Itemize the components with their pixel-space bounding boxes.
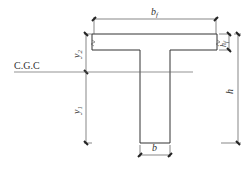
centroid-label: C.G.C [14, 60, 40, 71]
y-dimension [84, 32, 92, 145]
y1-label: y1 [71, 106, 84, 115]
y2-label: y2 [71, 50, 84, 59]
flange-width-dimension [92, 17, 218, 34]
total-height-label: h [224, 89, 235, 94]
t-section-outline [92, 34, 217, 143]
web-width-label: b [152, 142, 157, 153]
total-height-dimension [221, 32, 241, 145]
flange-thickness-label: hf [219, 40, 229, 47]
t-beam-diagram: bf y2 y1 C.G.C hf h b [0, 0, 252, 181]
flange-width-label: bf [151, 6, 159, 19]
